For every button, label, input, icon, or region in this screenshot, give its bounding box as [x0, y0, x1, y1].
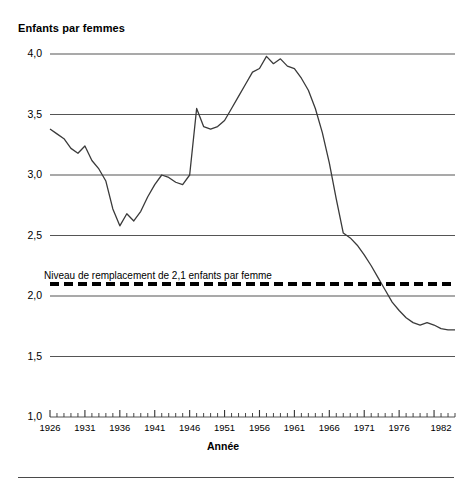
- bottom-divider-rule: [18, 477, 454, 478]
- data-series-line: [50, 56, 455, 329]
- y-axis-tick-label: 3,5: [14, 108, 42, 120]
- fertility-rate-chart-figure: Enfants par femmes Niveau de remplacemen…: [0, 0, 472, 486]
- y-axis-tick-label: 2,5: [14, 229, 42, 241]
- y-axis-tick-label: 1,5: [14, 350, 42, 362]
- x-axis-ticks-group: [50, 410, 455, 417]
- y-axis-tick-label: 3,0: [14, 168, 42, 180]
- x-axis-tick-label: 1976: [379, 422, 419, 433]
- gridlines-group: [50, 54, 455, 417]
- chart-plot-area: [0, 0, 472, 486]
- x-axis-tick-label: 1982: [421, 422, 461, 433]
- data-series-group: [50, 56, 455, 329]
- y-axis-tick-label: 1,0: [14, 410, 42, 422]
- y-axis-tick-label: 2,0: [14, 289, 42, 301]
- y-axis-tick-label: 4,0: [14, 47, 42, 59]
